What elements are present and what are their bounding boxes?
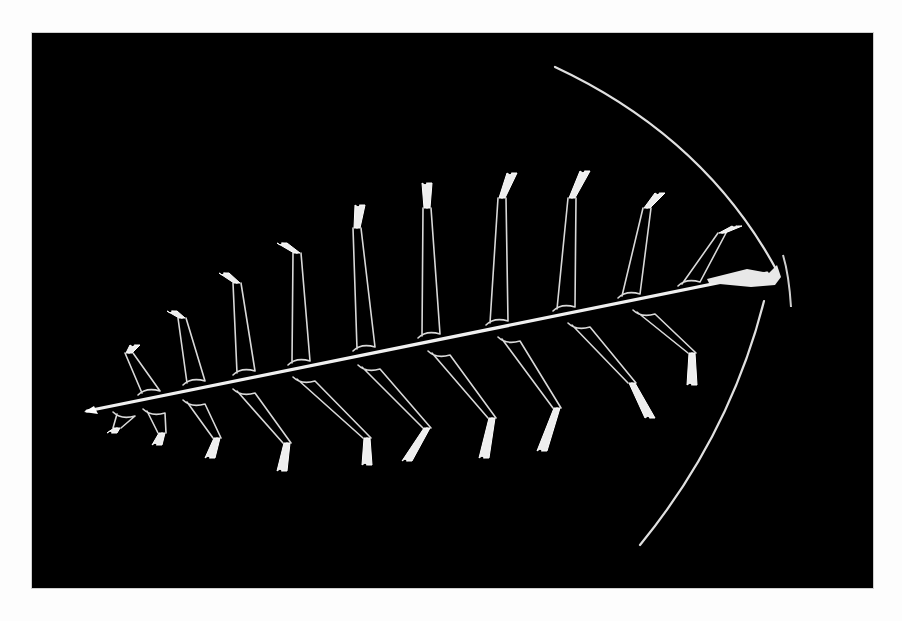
upper-tip-1 bbox=[167, 311, 185, 318]
upper-tip-2 bbox=[219, 273, 240, 283]
upper-branch-2 bbox=[224, 273, 255, 375]
upper-branch-7 bbox=[553, 171, 585, 311]
upper-branch-1 bbox=[172, 311, 205, 385]
lower-tip-8 bbox=[629, 383, 655, 418]
lower-tip-5 bbox=[402, 428, 430, 461]
branch-tips bbox=[107, 171, 742, 471]
upper-branch-8 bbox=[618, 193, 660, 298]
fern-specimen-illustration bbox=[32, 33, 873, 588]
upper-arm bbox=[555, 67, 777, 271]
upper-tip-6 bbox=[499, 173, 517, 198]
lower-tip-7 bbox=[537, 408, 560, 451]
upper-tip-9 bbox=[719, 226, 742, 233]
lower-branch-8 bbox=[568, 323, 650, 418]
lower-branch-4 bbox=[293, 377, 371, 465]
specimen-photograph bbox=[32, 33, 873, 588]
lower-tip-2 bbox=[205, 438, 220, 458]
upper-tip-3 bbox=[277, 243, 300, 253]
lower-tip-6 bbox=[479, 418, 495, 458]
upper-branch-6 bbox=[486, 173, 512, 325]
upper-tip-7 bbox=[569, 171, 590, 198]
curved-arms bbox=[555, 67, 777, 545]
upper-tip-0 bbox=[126, 345, 140, 353]
upper-tip-8 bbox=[644, 193, 665, 208]
lower-tip-0 bbox=[107, 428, 120, 433]
lower-tip-9 bbox=[687, 353, 697, 385]
specimen-head bbox=[707, 265, 781, 287]
lower-tip-4 bbox=[362, 438, 372, 465]
lower-tip-3 bbox=[277, 443, 290, 471]
upper-tip-4 bbox=[354, 205, 365, 228]
upper-branch-3 bbox=[282, 243, 310, 365]
lower-branch-9 bbox=[633, 310, 696, 385]
side-branches bbox=[112, 171, 737, 471]
head-crest bbox=[783, 255, 791, 307]
lower-tip-1 bbox=[152, 433, 165, 445]
upper-tip-5 bbox=[422, 183, 432, 208]
lower-arm bbox=[640, 301, 764, 545]
